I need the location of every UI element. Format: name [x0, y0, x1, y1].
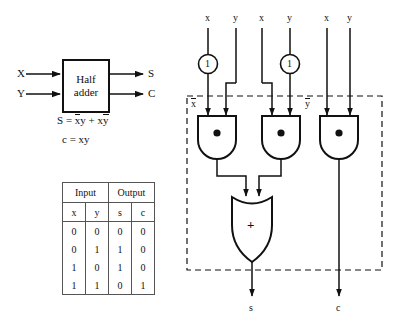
logic-circuit [0, 0, 405, 322]
label-y-bar: y [305, 99, 310, 109]
figure-canvas: Half adder X Y S C S = xy + xy c = xy In… [0, 0, 405, 322]
circuit-input-x-2-label: x [259, 13, 264, 23]
inverter-x-symbol: 1 [205, 59, 210, 69]
label-x-bar: x [191, 99, 196, 109]
circuit-output-c-label: c [336, 303, 340, 313]
and-gate-3 [320, 116, 358, 159]
label-x-bar-text: x [191, 99, 196, 109]
and-gate-1 [198, 116, 236, 159]
or-gate-symbol: + [247, 218, 254, 231]
label-y-bar-text: y [305, 99, 310, 109]
circuit-output-s-label: s [249, 303, 253, 313]
and-gate-2 [262, 116, 300, 159]
inverter-y-symbol: 1 [287, 59, 292, 69]
circuit-input-x-1-label: x [205, 13, 210, 23]
circuit-input-y-2-label: y [287, 13, 292, 23]
circuit-input-x-3-label: x [324, 13, 329, 23]
circuit-input-y-1-label: y [233, 13, 238, 23]
circuit-input-y-3-label: y [347, 13, 352, 23]
